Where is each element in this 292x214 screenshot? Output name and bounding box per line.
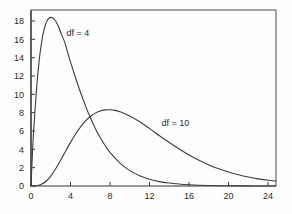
y-tick-label: 4 xyxy=(19,145,24,155)
y-tick-label: 8 xyxy=(19,108,24,118)
x-tick-label: 8 xyxy=(108,191,113,201)
y-tick-label: 0 xyxy=(19,181,24,191)
y-tick-label: 18 xyxy=(14,16,24,26)
curve-label: df = 4 xyxy=(67,28,90,38)
chart-screenshot: 024681012141618 04812162024 df = 4df = 1… xyxy=(0,0,292,214)
x-tick-label: 20 xyxy=(224,191,234,201)
x-tick-label: 24 xyxy=(263,191,273,201)
y-tick-label: 16 xyxy=(14,35,24,45)
y-tick-label: 2 xyxy=(19,163,24,173)
y-tick-label: 12 xyxy=(14,71,24,81)
y-tick-label: 10 xyxy=(14,90,24,100)
y-tick-label: 14 xyxy=(14,53,24,63)
curve-label: df = 10 xyxy=(161,118,189,128)
chi-square-density-chart: 024681012141618 04812162024 df = 4df = 1… xyxy=(0,0,292,214)
x-tick-label: 4 xyxy=(68,191,73,201)
y-tick-label: 6 xyxy=(19,126,24,136)
x-tick-label: 12 xyxy=(145,191,155,201)
x-tick-label: 16 xyxy=(184,191,194,201)
x-tick-label: 0 xyxy=(28,191,33,201)
